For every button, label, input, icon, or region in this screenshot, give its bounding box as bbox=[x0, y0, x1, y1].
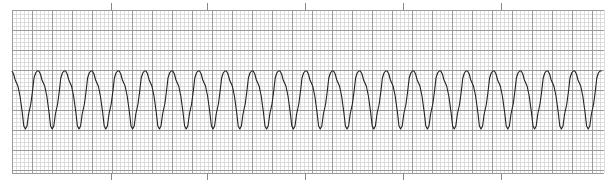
grid-minor-lines bbox=[12, 10, 605, 173]
ecg-strip bbox=[0, 0, 606, 182]
time-markers bbox=[112, 3, 502, 180]
